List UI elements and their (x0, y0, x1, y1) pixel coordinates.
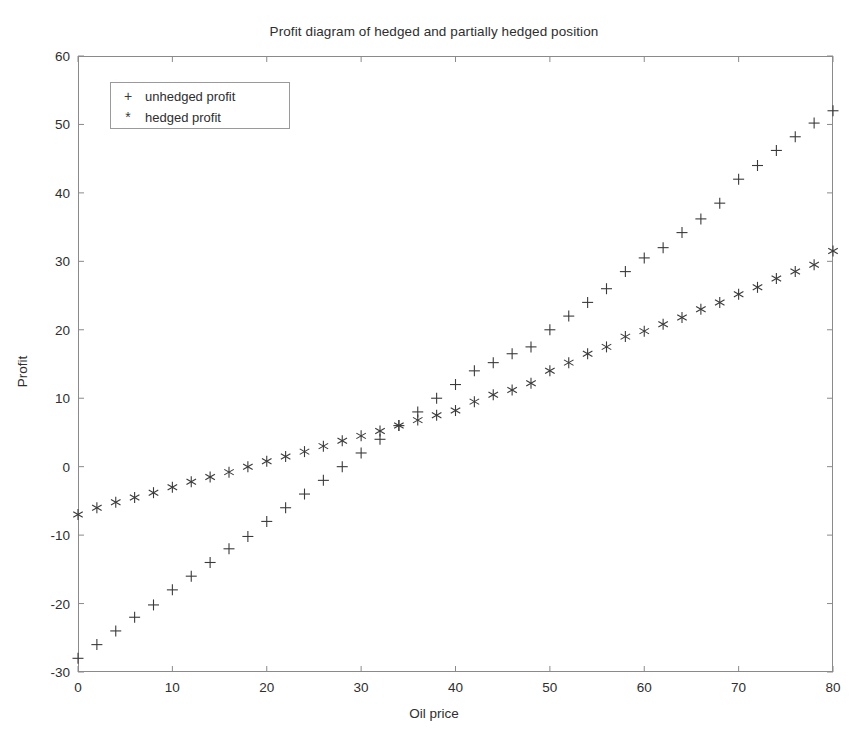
y-tick-label: 30 (16, 254, 70, 269)
y-tick-label: 60 (16, 49, 70, 64)
y-tick-label: -30 (16, 665, 70, 680)
x-axis-title: Oil price (0, 706, 868, 721)
x-tick-label: 70 (709, 680, 769, 695)
legend-label-hedged: hedged profit (145, 110, 221, 125)
legend-label-unhedged: unhedged profit (145, 89, 235, 104)
y-tick-label: -20 (16, 596, 70, 611)
x-tick-label: 30 (331, 680, 391, 695)
x-tick-label: 20 (237, 680, 297, 695)
y-tick-label: -10 (16, 528, 70, 543)
legend-entry-unhedged: + unhedged profit (111, 85, 291, 107)
x-tick-label: 80 (803, 680, 863, 695)
figure-canvas: Profit diagram of hedged and partially h… (0, 0, 868, 746)
x-tick-label: 40 (426, 680, 486, 695)
chart-legend: + unhedged profit * hedged profit (110, 82, 290, 129)
legend-entry-hedged: * hedged profit (111, 106, 291, 128)
x-tick-label: 10 (142, 680, 202, 695)
y-tick-label: 40 (16, 185, 70, 200)
y-tick-label: 50 (16, 117, 70, 132)
y-tick-label: 0 (16, 459, 70, 474)
plus-marker-icon: + (111, 89, 145, 103)
x-tick-label: 60 (614, 680, 674, 695)
y-axis-title: Profit (15, 332, 30, 412)
x-tick-label: 50 (520, 680, 580, 695)
x-tick-label: 0 (48, 680, 108, 695)
plot-area (78, 56, 833, 672)
asterisk-marker-icon: * (111, 110, 145, 124)
chart-title: Profit diagram of hedged and partially h… (0, 24, 868, 39)
